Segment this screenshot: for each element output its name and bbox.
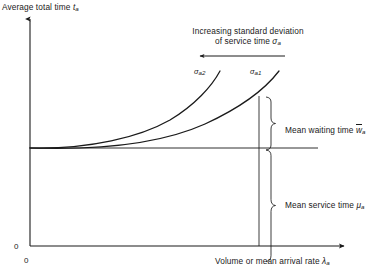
bracket-mean-service-time [266, 150, 276, 262]
curve-label-sigma-a2: σa2 [194, 67, 206, 77]
y-axis-label: Average total time ta [2, 2, 79, 13]
curve-label-sigma-a1: σa1 [250, 67, 262, 77]
origin-label-x: 0 [24, 256, 29, 266]
curve-sigma-a1 [30, 71, 279, 148]
curve-sigma-a2 [30, 71, 220, 148]
origin-label-y: 0 [14, 242, 19, 252]
x-axis-label: Volume or mean arrival rate λa [215, 256, 330, 267]
bracket-mean-waiting-time [266, 97, 276, 150]
mean-waiting-time-label: Mean waiting time wa [285, 125, 366, 136]
figure-container: Average total time ta Increasing standar… [0, 0, 366, 270]
increasing-std-dev-annotation: Increasing standard deviationof service … [186, 26, 310, 47]
mean-service-time-label: Mean service time μa [285, 200, 365, 211]
